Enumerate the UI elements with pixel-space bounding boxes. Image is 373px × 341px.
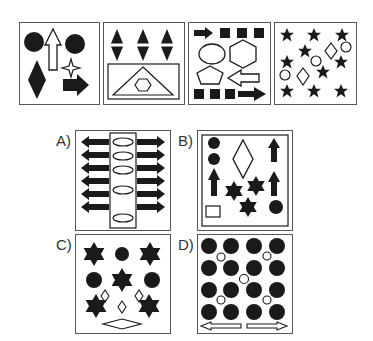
- panel-3-shapes: [194, 27, 266, 101]
- inner-rectangle: [108, 64, 179, 99]
- pentagon-icon: [197, 66, 223, 84]
- option-b-shapes: [202, 135, 288, 226]
- filled-circle-icon: [65, 34, 85, 54]
- hexagon-icon: [230, 40, 256, 68]
- option-c-shapes: [84, 242, 161, 329]
- filled-diamond-icon: [28, 60, 46, 99]
- option-d-shapes: [201, 238, 287, 330]
- puzzle-shapes: [0, 0, 373, 341]
- hexagon-icon: [135, 79, 151, 91]
- right-arrow-icon: [63, 74, 89, 96]
- ellipse-icon: [199, 44, 225, 64]
- right-arrow-icon: [238, 87, 266, 101]
- option-a-shapes: [81, 133, 165, 228]
- panel-4-shapes: [280, 28, 351, 98]
- up-arrow-icon: [45, 29, 61, 70]
- panel-2-shapes: [108, 29, 179, 99]
- left-arrow-icon: [228, 70, 259, 86]
- panel-1-shapes: [24, 29, 89, 99]
- filled-circle-icon: [24, 32, 44, 52]
- right-arrow-icon: [194, 27, 213, 39]
